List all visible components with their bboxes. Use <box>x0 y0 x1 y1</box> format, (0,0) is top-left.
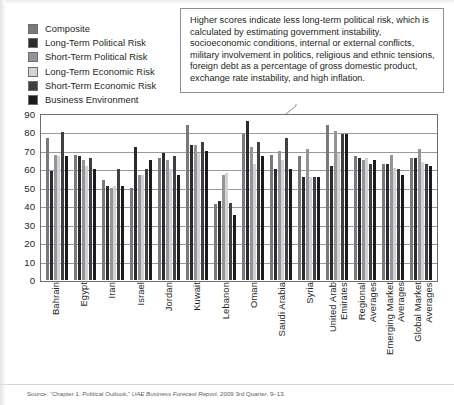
legend-item: Short-Term Economic Risk <box>28 79 178 93</box>
source-title: UAE Business Forecast Report, <box>132 390 219 397</box>
x-axis-tick: Saudi Arabia <box>268 282 296 378</box>
bar <box>117 169 120 280</box>
x-axis-tick-label: Iran <box>107 282 118 299</box>
y-axis-tick-label: 60 <box>24 166 35 176</box>
bar-group <box>351 116 379 280</box>
bar <box>365 158 368 280</box>
bar <box>386 164 389 280</box>
bar <box>166 160 169 280</box>
bar <box>274 169 277 280</box>
x-axis-tick-label: Saudi Arabia <box>277 282 288 336</box>
x-axis-tick: Iran <box>99 282 127 378</box>
bar-group <box>323 116 351 280</box>
x-axis-tick: Israel <box>127 282 155 378</box>
x-axis-tick: Jordan <box>155 282 183 378</box>
bar <box>425 164 428 280</box>
x-axis-tick-label: Kuwait <box>192 282 203 311</box>
x-axis-tick: Oman <box>240 282 268 378</box>
bar-group <box>99 116 127 280</box>
source-suffix: 2009 3rd Quarter, 9–13. <box>218 390 285 397</box>
y-axis-tick-label: 80 <box>24 129 35 139</box>
bar <box>173 156 176 280</box>
x-axis-tick-label: United Arab Emirates <box>328 282 349 332</box>
bar <box>289 169 292 280</box>
bar <box>134 147 137 280</box>
bar <box>345 134 348 280</box>
bar <box>57 156 60 280</box>
page-edge-shade-top <box>0 0 454 4</box>
bar <box>130 188 133 280</box>
x-axis-tick-label: Global Market Averages <box>413 282 434 342</box>
bar <box>362 160 365 280</box>
bar <box>410 158 413 280</box>
bar <box>354 156 357 280</box>
legend-item-label: Short-Term Economic Risk <box>45 81 156 91</box>
bar <box>306 149 309 280</box>
bar <box>382 164 385 280</box>
bar <box>194 145 197 280</box>
bar <box>145 169 148 280</box>
legend-item-label: Long-Term Political Risk <box>45 38 146 48</box>
bar <box>261 156 264 280</box>
bar <box>421 162 424 280</box>
bar <box>158 158 161 280</box>
bar <box>341 134 344 280</box>
bar <box>246 121 249 280</box>
legend-item: Short-Term Political Risk <box>28 50 178 64</box>
bar <box>78 156 81 280</box>
bar-group <box>379 116 407 280</box>
bar <box>397 169 400 280</box>
figure-page: CompositeLong-Term Political RiskShort-T… <box>0 0 454 405</box>
bar <box>113 186 116 280</box>
bar <box>110 188 113 280</box>
bar <box>205 151 208 280</box>
bar <box>197 153 200 280</box>
bar-groups <box>42 116 436 280</box>
bar <box>162 153 165 280</box>
annotation-callout: Higher scores indicate less long-term po… <box>180 8 444 93</box>
bar <box>93 169 96 280</box>
bar <box>298 156 301 280</box>
x-axis-tick: United Arab Emirates <box>325 282 353 378</box>
bar-group <box>407 116 435 280</box>
bar-group <box>183 116 211 280</box>
bar <box>281 160 284 280</box>
legend-swatch-icon <box>28 52 38 62</box>
legend-item: Long-Term Economic Risk <box>28 65 178 79</box>
bar-group <box>127 116 155 280</box>
bar <box>177 175 180 280</box>
bar <box>326 125 329 280</box>
bar <box>141 175 144 280</box>
x-axis-tick-label: Lebanon <box>221 282 232 319</box>
legend-swatch-icon <box>28 38 38 48</box>
x-axis-tick-label: Emerging Market Averages <box>385 282 406 355</box>
page-edge-shade-left <box>0 0 6 405</box>
legend-item: Long-Term Political Risk <box>28 36 178 50</box>
x-axis: BahrainEgyptIranIsraelJordanKuwaitLebano… <box>41 282 439 378</box>
legend-item-label: Business Environment <box>45 95 139 105</box>
y-axis-tick-label: 40 <box>24 202 35 212</box>
bar-group <box>239 116 267 280</box>
annotation-callout-text: Higher scores indicate less long-term po… <box>190 15 435 85</box>
bar <box>278 151 281 280</box>
bar-group <box>71 116 99 280</box>
x-axis-tick-label: Regional Averages <box>357 282 378 322</box>
x-axis-tick: Egypt <box>70 282 98 378</box>
bar-group <box>267 116 295 280</box>
y-axis-tick-label: 10 <box>24 258 35 268</box>
y-axis: 0102030405060708090 <box>17 114 38 282</box>
bar <box>225 173 228 280</box>
x-axis-tick: Kuwait <box>183 282 211 378</box>
bar <box>82 160 85 280</box>
bar <box>214 204 217 280</box>
legend-item: Business Environment <box>28 93 178 107</box>
bar-chart: 0102030405060708090 <box>17 114 441 296</box>
bar <box>250 147 253 280</box>
bar <box>401 175 404 280</box>
bar-group <box>295 116 323 280</box>
bar <box>222 175 225 280</box>
bar <box>242 134 245 280</box>
source-prefix: Source: “Chapter 1: Political Outlook,” <box>27 390 132 397</box>
legend-swatch-icon <box>28 67 38 77</box>
bar <box>121 186 124 280</box>
